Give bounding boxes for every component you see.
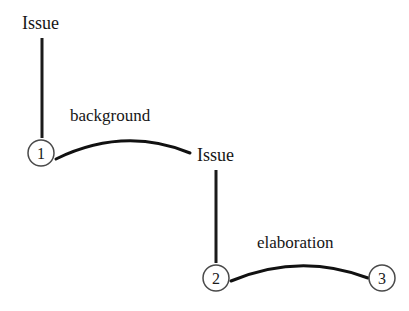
- node-2-label: 2: [212, 270, 220, 287]
- node-3[interactable]: 3: [369, 265, 395, 291]
- node-1[interactable]: 1: [28, 140, 54, 166]
- relation-label-background: background: [70, 107, 150, 124]
- nucleus-label-issue-mid: Issue: [197, 146, 234, 164]
- rst-diagram-canvas: 1 2 3 Issue background Issue elaboration: [0, 0, 409, 311]
- node-3-label: 3: [378, 270, 386, 287]
- node-1-label: 1: [37, 145, 45, 162]
- nucleus-label-issue-top: Issue: [22, 14, 59, 32]
- node-2[interactable]: 2: [203, 265, 229, 291]
- relation-arc-background: [56, 141, 190, 159]
- relation-label-elaboration: elaboration: [257, 234, 333, 251]
- relation-arc-elaboration: [231, 266, 368, 281]
